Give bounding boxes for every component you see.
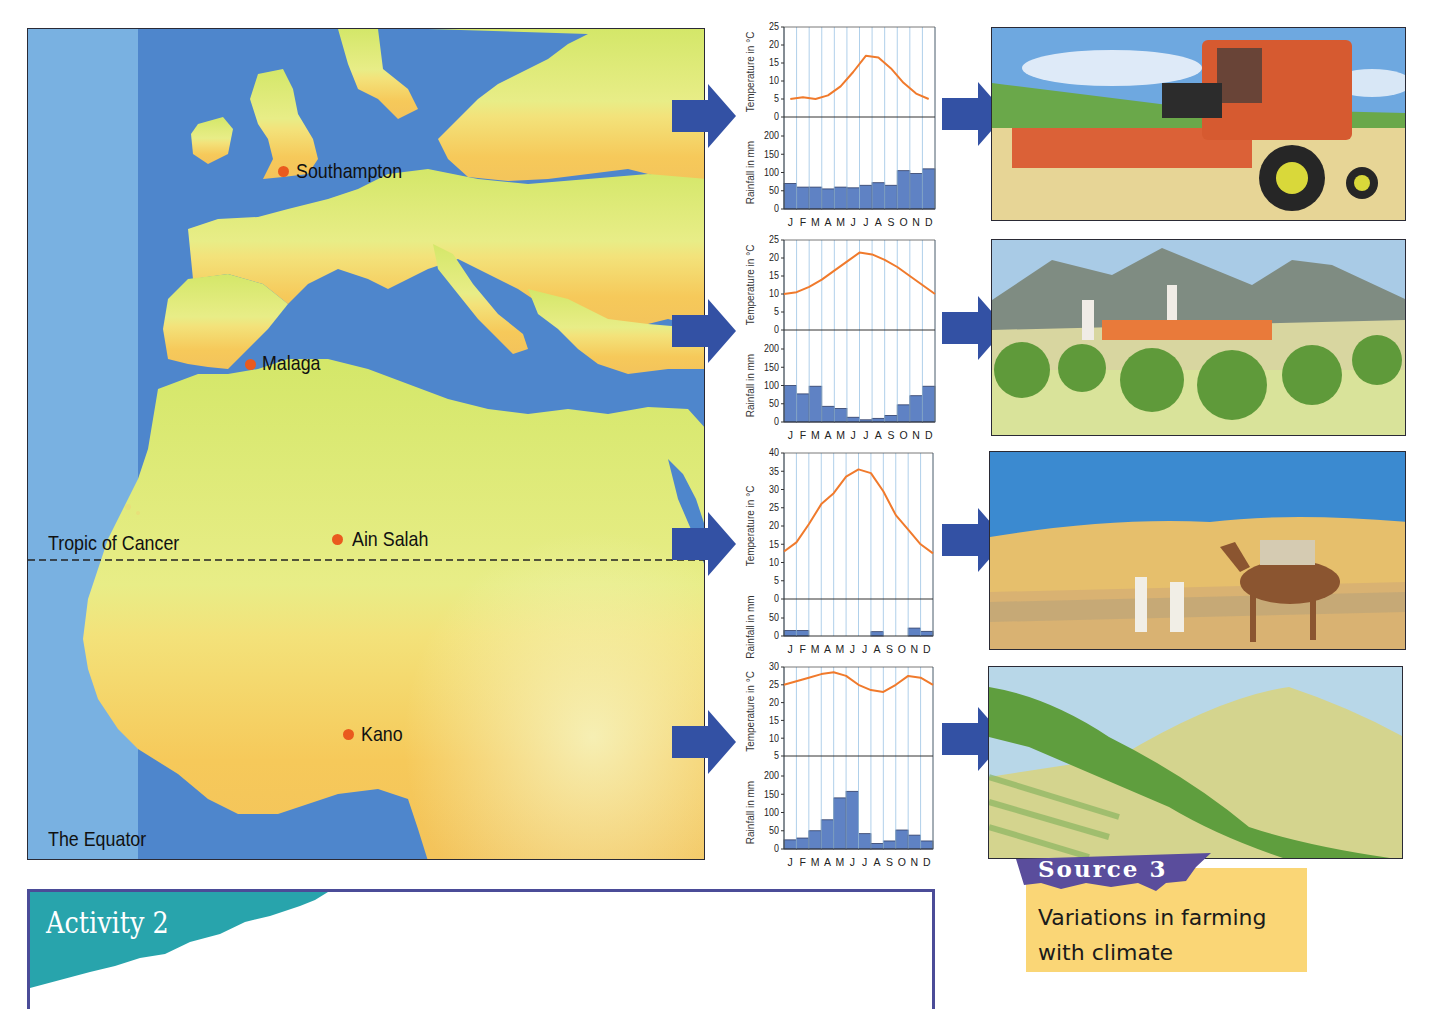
month-label: O xyxy=(898,643,906,655)
chart-svg: 0510152025050100150200JFMAMJJASONDTemper… xyxy=(740,233,940,443)
month-label: M xyxy=(811,216,820,228)
rainfall-bar xyxy=(822,406,835,422)
month-label: D xyxy=(923,643,931,655)
month-label: O xyxy=(899,429,907,441)
city-dot-ain-salah xyxy=(332,534,343,545)
activity-title: Activity 2 xyxy=(46,906,169,940)
month-label: A xyxy=(824,643,831,655)
rainfall-bar xyxy=(885,185,898,209)
rainfall-bar xyxy=(846,791,858,849)
rainfall-bar xyxy=(922,386,935,422)
rainfall-bar xyxy=(921,841,933,849)
rainfall-bar xyxy=(784,183,797,209)
rainfall-bar xyxy=(908,628,920,636)
rainfall-bar xyxy=(908,835,920,849)
rainfall-bar xyxy=(859,834,871,849)
temp-tick-label: 25 xyxy=(769,502,779,514)
source-title: Source 3 xyxy=(1038,855,1167,882)
photo-mediterranean-orchards xyxy=(991,239,1406,436)
temp-tick-label: 5 xyxy=(774,575,779,587)
rainfall-bar xyxy=(871,844,883,849)
rainfall-bar xyxy=(847,188,860,209)
tropic-of-cancer-label: Tropic of Cancer xyxy=(48,531,179,555)
temp-tick-label: 30 xyxy=(769,661,779,673)
rainfall-axis-title: Rainfall in mm xyxy=(745,595,756,658)
month-label: A xyxy=(825,216,832,228)
month-label: M xyxy=(811,856,820,868)
temp-tick-label: 0 xyxy=(774,324,779,336)
right-arrow-icon xyxy=(672,512,736,576)
rainfall-bar xyxy=(809,187,822,209)
rainfall-bar xyxy=(847,417,860,422)
month-label: D xyxy=(925,429,933,441)
rain-tick-label: 150 xyxy=(764,788,779,800)
month-label: A xyxy=(875,429,882,441)
photo-tropical-hillside xyxy=(988,666,1403,859)
rainfall-bar xyxy=(910,396,923,422)
rainfall-bar xyxy=(872,183,885,209)
temp-tick-label: 20 xyxy=(769,252,779,264)
rainfall-bar xyxy=(834,187,847,209)
rain-tick-label: 100 xyxy=(764,166,779,178)
temp-tick-label: 40 xyxy=(769,447,779,459)
rain-tick-label: 0 xyxy=(774,416,779,428)
temp-tick-label: 35 xyxy=(769,465,779,477)
equator-label: The Equator xyxy=(48,827,146,851)
month-label: J xyxy=(863,216,868,228)
rain-tick-label: 150 xyxy=(764,361,779,373)
temp-tick-label: 25 xyxy=(769,679,779,691)
chart-svg: 51015202530050100150200JFMAMJJASONDTempe… xyxy=(740,660,940,870)
climate-chart-ain-salah: 0510152025303540050JFMAMJJASONDTemperatu… xyxy=(740,446,940,656)
rain-tick-label: 50 xyxy=(769,825,779,837)
temp-tick-label: 0 xyxy=(774,111,779,123)
temp-tick-label: 10 xyxy=(769,556,779,568)
city-dot-malaga xyxy=(245,359,256,370)
month-label: S xyxy=(887,216,894,228)
month-label: J xyxy=(862,856,867,868)
temp-tick-label: 15 xyxy=(769,270,779,282)
rain-tick-label: 150 xyxy=(764,148,779,160)
temp-tick-label: 10 xyxy=(769,288,779,300)
city-label-ain-salah: Ain Salah xyxy=(352,527,428,551)
month-label: N xyxy=(911,643,919,655)
rain-tick-label: 200 xyxy=(764,770,779,782)
rain-tick-label: 100 xyxy=(764,806,779,818)
month-label: O xyxy=(899,216,907,228)
month-label: J xyxy=(850,856,855,868)
temp-tick-label: 15 xyxy=(769,714,779,726)
month-label: D xyxy=(923,856,931,868)
right-arrow-icon xyxy=(672,84,736,148)
month-label: J xyxy=(862,643,867,655)
month-label: J xyxy=(863,429,868,441)
rainfall-bar xyxy=(834,408,847,422)
rain-tick-label: 0 xyxy=(774,630,779,642)
right-arrow-icon xyxy=(672,710,736,774)
city-dot-kano xyxy=(343,729,354,740)
month-label: J xyxy=(788,429,793,441)
temperature-axis-title: Temperature in °C xyxy=(745,245,756,326)
month-label: J xyxy=(851,216,856,228)
climate-chart-malaga: 0510152025050100150200JFMAMJJASONDTemper… xyxy=(740,233,940,443)
temp-tick-label: 10 xyxy=(769,732,779,744)
rainfall-bar xyxy=(822,189,835,209)
rainfall-axis-title: Rainfall in mm xyxy=(745,354,756,417)
rainfall-bar xyxy=(797,187,810,209)
month-label: A xyxy=(875,216,882,228)
rainfall-bar xyxy=(797,394,810,422)
month-label: F xyxy=(799,643,805,655)
month-label: A xyxy=(874,643,881,655)
temp-tick-label: 20 xyxy=(769,696,779,708)
month-label: F xyxy=(800,429,806,441)
rainfall-bar xyxy=(784,840,796,849)
month-label: J xyxy=(788,216,793,228)
temperature-axis-title: Temperature in °C xyxy=(745,32,756,113)
month-label: A xyxy=(825,429,832,441)
month-label: O xyxy=(898,856,906,868)
rain-tick-label: 50 xyxy=(769,185,779,197)
month-label: M xyxy=(836,643,845,655)
temp-tick-label: 5 xyxy=(774,93,779,105)
rainfall-bar xyxy=(809,386,822,422)
month-label: J xyxy=(850,643,855,655)
rainfall-bar xyxy=(834,798,846,849)
chart-svg: 0510152025050100150200JFMAMJJASONDTemper… xyxy=(740,20,940,230)
